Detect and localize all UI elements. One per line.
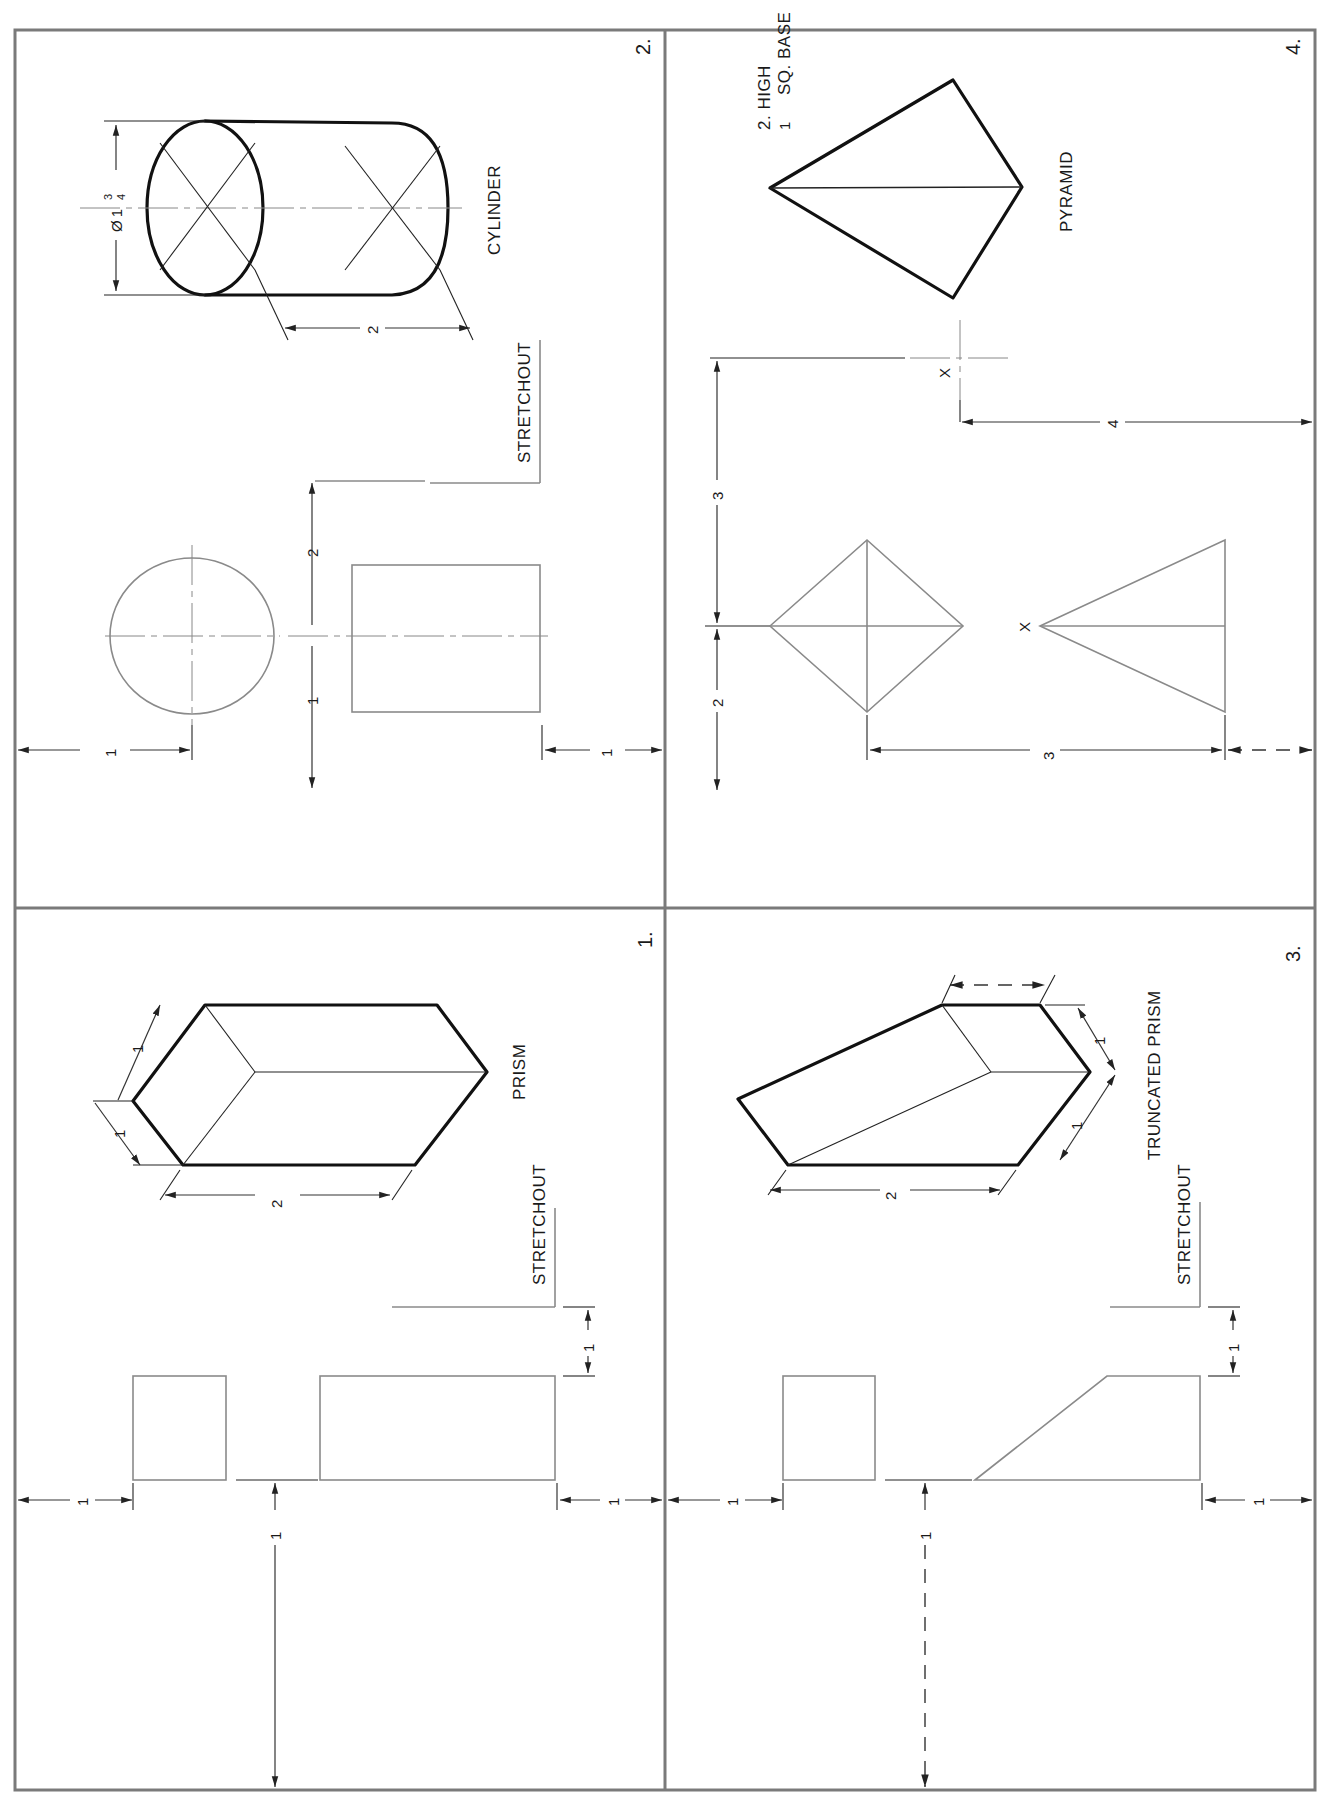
panel-title: PYRAMID [1057,151,1076,232]
svg-text:2: 2 [882,1192,899,1200]
svg-text:3: 3 [102,194,114,200]
panel-prism: 1. 1 1 2 PRISM STRETCHOUT [18,931,662,1787]
svg-text:1: 1 [1068,1122,1085,1130]
svg-text:1: 1 [776,122,793,130]
cylinder-pictorial: Ø1 3 4 2 CYLINDER [80,121,504,340]
panel-number: 2. [632,38,654,55]
pyramid-layout: X 4 3 2 X 3 [705,320,1312,790]
diameter-label: Ø1 [108,209,125,232]
svg-text:1: 1 [129,1045,146,1053]
panel-number: 1. [634,931,656,948]
pyramid-spec-base: SQ. BASE [775,12,794,95]
svg-text:1: 1 [74,1498,91,1506]
svg-text:3: 3 [1040,752,1057,760]
pyramid-pictorial: PYRAMID [770,80,1076,298]
svg-text:1: 1 [917,1532,934,1540]
prism-pictorial: 1 1 2 PRISM [93,1005,529,1208]
pyramid-spec-height: 2. HIGH [755,65,774,130]
stretchout-layout: STRETCHOUT 1 1 1 1 [18,1164,662,1787]
svg-text:1: 1 [111,1130,128,1138]
svg-text:2: 2 [709,699,726,707]
svg-text:1: 1 [304,697,321,705]
svg-text:1: 1 [724,1498,741,1506]
svg-text:1: 1 [598,749,615,757]
panel-number: 4. [1282,38,1304,55]
stretchout-layout: STRETCHOUT 2 1 1 1 [18,340,662,788]
drawing-sheet: 2. Ø1 3 4 2 CYLINDER [0,0,1337,1796]
svg-text:1: 1 [267,1532,284,1540]
apex-marker: X [936,368,953,378]
svg-text:1: 1 [1091,1037,1108,1045]
svg-text:4: 4 [115,194,127,200]
panel-number: 3. [1282,945,1304,962]
panel-title: PRISM [510,1044,529,1100]
svg-text:1: 1 [1225,1344,1242,1352]
stretchout-label: STRETCHOUT [515,342,534,463]
stretchout-label: STRETCHOUT [530,1164,549,1285]
stretchout-layout: STRETCHOUT 1 1 1 1 [668,1164,1312,1787]
panel-cylinder: 2. Ø1 3 4 2 CYLINDER [18,38,662,788]
panel-title: CYLINDER [485,165,504,255]
svg-text:1: 1 [1250,1498,1267,1506]
panel-pyramid: 4. 2. HIGH SQ. BASE 1 PYRAMID X 4 3 2 [705,12,1312,790]
truncated-prism-pictorial: 1 1 2 TRUNCATED PRISM [738,975,1164,1200]
svg-text:2: 2 [268,1200,285,1208]
svg-text:1: 1 [580,1344,597,1352]
svg-text:4: 4 [1104,420,1121,428]
panel-truncated-prism: 3. 1 1 2 TRUNCATED PRISM STRETCHOUT [668,945,1312,1787]
svg-text:2: 2 [304,549,321,557]
svg-text:1: 1 [605,1498,622,1506]
panel-title: TRUNCATED PRISM [1145,990,1164,1160]
svg-text:3: 3 [709,492,726,500]
length-label: 2 [364,326,381,334]
svg-text:1: 1 [102,749,119,757]
svg-text:X: X [1016,622,1033,632]
stretchout-label: STRETCHOUT [1175,1164,1194,1285]
